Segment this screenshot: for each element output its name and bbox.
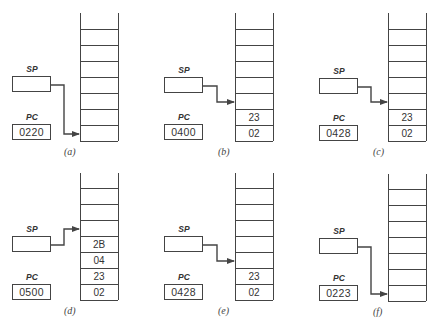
sp-pointer-arrow-icon (0, 0, 436, 326)
